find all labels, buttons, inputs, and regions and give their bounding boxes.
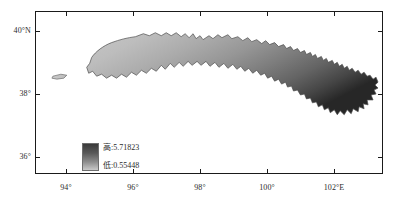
x-axis-label-96: 96°: [127, 183, 139, 192]
tick-bottom-100: [267, 169, 268, 173]
tick-top-94: [66, 12, 67, 16]
map-figure: 高:5.71823 低:0.55448 40°N 38° 36° 94° 96°…: [0, 0, 413, 202]
x-axis-label-94: 94°: [60, 183, 72, 192]
y-axis-label-40N: 40°N: [2, 26, 31, 35]
tick-bottom-94: [66, 169, 67, 173]
x-axis-label-98: 98°: [194, 183, 206, 192]
tick-left-40: [36, 31, 40, 32]
tick-left-38: [36, 94, 40, 95]
tick-top-96: [133, 12, 134, 16]
x-axis-label-102E: 102°E: [324, 183, 345, 192]
tick-left-36: [36, 157, 40, 158]
tick-top-100: [267, 12, 268, 16]
tick-right-36: [378, 157, 382, 158]
region-polygon-group: [52, 33, 378, 115]
y-axis-label-36: 36°: [2, 152, 31, 161]
x-axis-label-100: 100°: [259, 183, 275, 192]
tick-right-40: [378, 31, 382, 32]
tick-bottom-98: [200, 169, 201, 173]
legend-labels: 高:5.71823 低:0.55448: [103, 143, 139, 171]
tick-bottom-102: [334, 169, 335, 173]
legend-low-label: 低:0.55448: [103, 161, 139, 170]
legend-high-label: 高:5.71823: [103, 143, 139, 152]
map-legend: 高:5.71823 低:0.55448: [82, 143, 139, 171]
plot-frame: 高:5.71823 低:0.55448: [35, 11, 383, 174]
y-axis-label-38: 38°: [2, 89, 31, 98]
tick-top-102: [334, 12, 335, 16]
tick-right-38: [378, 94, 382, 95]
tick-top-98: [200, 12, 201, 16]
region-polygon-main: [87, 33, 378, 115]
legend-gradient-swatch: [82, 143, 99, 171]
region-polygon-islet: [52, 74, 67, 79]
